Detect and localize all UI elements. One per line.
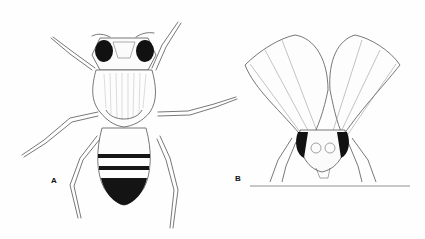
panel-label-a: A [51, 176, 57, 185]
panel-a: A [0, 0, 240, 239]
panel-b: B [220, 20, 425, 210]
fly-dorsal-illustration [0, 0, 240, 239]
fly-frontal-illustration [220, 20, 425, 210]
panel-label-b: B [235, 174, 241, 183]
figure-canvas: A B [0, 0, 425, 239]
